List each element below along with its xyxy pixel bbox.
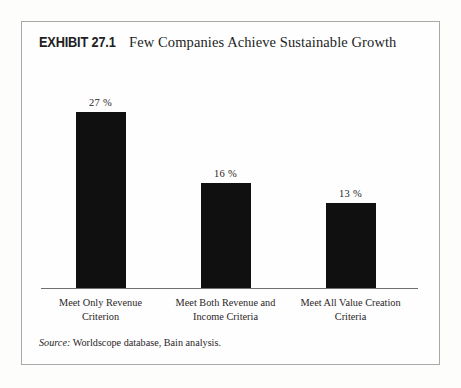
category-label-2: Meet Both Revenue and Income Criteria: [153, 296, 298, 323]
bar-group-3: 13 %: [288, 188, 413, 288]
category-label-3: Meet All Value Creation Criteria: [278, 296, 423, 323]
category-label-3-line-1: Meet All Value Creation: [278, 296, 423, 310]
chart-plot-area: 27 % 16 % 13 % Meet Only Revenue Criteri…: [22, 22, 441, 366]
source-keyword: Source:: [39, 337, 70, 348]
category-label-1: Meet Only Revenue Criterion: [28, 296, 173, 323]
source-text: Worldscope database, Bain analysis.: [73, 337, 221, 348]
exhibit-frame: EXHIBIT 27.1Few Companies Achieve Sustai…: [21, 21, 440, 365]
bar-group-1: 27 %: [38, 97, 163, 288]
category-label-1-line-1: Meet Only Revenue: [28, 296, 173, 310]
bar-value-label-3: 13 %: [288, 188, 413, 199]
category-label-2-line-1: Meet Both Revenue and: [153, 296, 298, 310]
exhibit-page: EXHIBIT 27.1Few Companies Achieve Sustai…: [0, 0, 461, 388]
bar-value-label-2: 16 %: [163, 168, 288, 179]
source-note: Source: Worldscope database, Bain analys…: [39, 337, 221, 348]
bar-rect-1[interactable]: [76, 112, 126, 288]
category-label-1-line-2: Criterion: [28, 310, 173, 324]
category-label-2-line-2: Income Criteria: [153, 310, 298, 324]
bar-value-label-1: 27 %: [38, 97, 163, 108]
category-label-3-line-2: Criteria: [278, 310, 423, 324]
x-axis-line: [41, 288, 418, 289]
bar-rect-2[interactable]: [201, 183, 251, 288]
bar-group-2: 16 %: [163, 168, 288, 288]
bar-rect-3[interactable]: [326, 203, 376, 288]
